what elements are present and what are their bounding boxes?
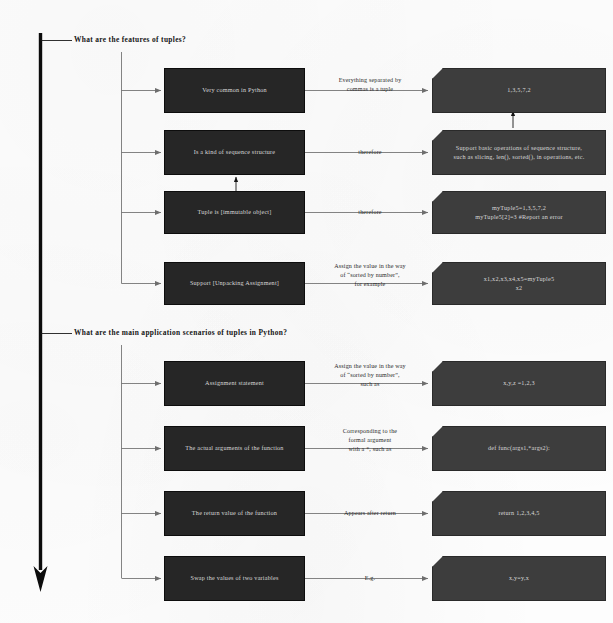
- node-label: The return value of the function: [192, 509, 277, 518]
- node-label: Very common in Python: [202, 86, 267, 95]
- node-immutable-code-example[interactable]: myTuple5=1,3,5,7,2 myTuple5[2]=3 #Report…: [432, 191, 606, 234]
- edge-label-eg: E.g.: [313, 574, 427, 583]
- node-label: Support [Unpacking Assignment]: [190, 279, 279, 288]
- node-label: Assignment statement: [205, 379, 264, 388]
- edge-label-appears-after-return: Appears after return: [313, 509, 427, 518]
- edge-group-features: [305, 91, 428, 284]
- node-swap-variables[interactable]: Swap the values of two variables: [164, 556, 305, 601]
- branch-group-scenarios: [122, 345, 162, 579]
- edge-label-commas-tuple: Everything separated by commas is a tupl…: [313, 76, 427, 94]
- node-label: x,y,z =1,2,3: [503, 379, 534, 388]
- node-actual-arguments[interactable]: The actual arguments of the function: [164, 426, 305, 471]
- node-label: Support basic operations of sequence str…: [454, 144, 585, 162]
- node-very-common-in-python[interactable]: Very common in Python: [164, 68, 305, 113]
- node-label: myTuple5=1,3,5,7,2 myTuple5[2]=3 #Report…: [475, 204, 562, 222]
- node-tuple-literal-example[interactable]: 1,3,5,7,2: [432, 68, 606, 113]
- edge-group-scenarios: [305, 384, 428, 579]
- node-return-code-example[interactable]: return 1,2,3,4,5: [432, 491, 606, 536]
- edge-label-formal-argument: Corresponding to the formal argument wit…: [313, 427, 427, 453]
- node-function-def-example[interactable]: def func(args1,*args2):: [432, 426, 606, 471]
- node-unpacking-assignment[interactable]: Support [Unpacking Assignment]: [164, 262, 305, 305]
- edge-label-therefore-1: therefore: [332, 148, 408, 157]
- node-return-value[interactable]: The return value of the function: [164, 491, 305, 536]
- node-sequence-structure[interactable]: Is a kind of sequence structure: [164, 130, 305, 175]
- node-immutable-object[interactable]: Tuple is [immutable object]: [164, 191, 305, 234]
- branch-group-features: [122, 52, 162, 284]
- edge-label-therefore-2: therefore: [332, 208, 408, 217]
- node-label: The actual arguments of the function: [185, 444, 283, 453]
- node-label: return 1,2,3,4,5: [498, 509, 539, 518]
- main-flow-arrow: [34, 33, 48, 592]
- node-swap-code-example[interactable]: x,y=y,x: [432, 556, 606, 601]
- section-heading-features: What are the features of tuples?: [74, 35, 186, 44]
- node-label: Swap the values of two variables: [190, 574, 278, 583]
- node-unpacking-code-example[interactable]: x1,x2,x3,x4,x5=myTuple5 x2: [432, 262, 606, 305]
- node-label: Is a kind of sequence structure: [194, 148, 276, 157]
- node-label: x,y=y,x: [509, 574, 529, 583]
- node-label: def func(args1,*args2):: [488, 444, 550, 453]
- node-assignment-code-example[interactable]: x,y,z =1,2,3: [432, 361, 606, 406]
- node-assignment-statement[interactable]: Assignment statement: [164, 361, 305, 406]
- section-heading-scenarios: What are the main application scenarios …: [74, 328, 287, 337]
- edge-label-sorted-by-number-2: Assign the value in the way of “sorted b…: [313, 362, 427, 388]
- node-label: Tuple is [immutable object]: [197, 208, 271, 217]
- diagram-canvas: What are the features of tuples? Very co…: [0, 0, 613, 623]
- node-label: 1,3,5,7,2: [507, 86, 530, 95]
- node-label: x1,x2,x3,x4,x5=myTuple5 x2: [484, 275, 554, 293]
- node-sequence-operations[interactable]: Support basic operations of sequence str…: [432, 130, 606, 175]
- edge-label-sorted-by-number-1: Assign the value in the way of “sorted b…: [313, 262, 427, 288]
